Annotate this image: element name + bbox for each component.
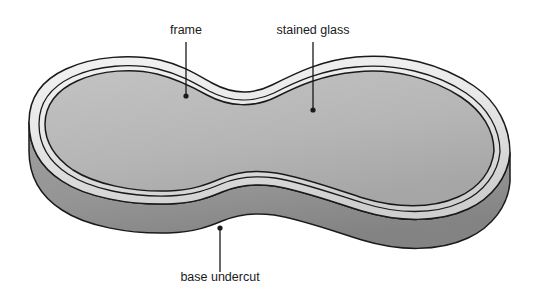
stained-glass-label: stained glass xyxy=(277,23,350,37)
base-undercut-leader-dot xyxy=(217,225,222,230)
stained-glass-leader-dot xyxy=(310,107,315,112)
stained-glass-panel-illustration: frame stained glass base undercut xyxy=(0,0,540,296)
diagram-canvas: frame stained glass base undercut xyxy=(0,0,540,296)
base-undercut-label: base undercut xyxy=(180,270,260,284)
callout-base-undercut: base undercut xyxy=(180,225,260,284)
frame-leader-dot xyxy=(183,93,188,98)
frame-label: frame xyxy=(170,23,202,37)
